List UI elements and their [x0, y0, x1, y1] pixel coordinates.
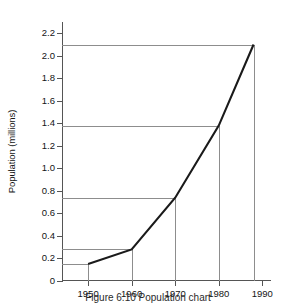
- y-tick-label: 2.2: [42, 27, 55, 38]
- population-line-chart: Population (millions) 00.20.40.60.81.01.…: [0, 0, 296, 303]
- y-tick-label: 0.4: [42, 230, 55, 241]
- x-tick-mark-1960: [132, 281, 133, 286]
- x-tick-mark-1990: [262, 281, 263, 286]
- x-tick-mark-1970: [175, 281, 176, 286]
- plot-area: 00.20.40.60.81.01.21.41.61.82.02.2 19501…: [62, 22, 271, 281]
- y-tick-label: 0: [50, 275, 55, 286]
- y-tick-label: 1.8: [42, 72, 55, 83]
- y-tick-label: 1.2: [42, 140, 55, 151]
- y-tick-label: 0.8: [42, 185, 55, 196]
- y-tick-label: 1.4: [42, 117, 55, 128]
- y-tick-label: 1.0: [42, 162, 55, 173]
- x-tick-mark-1950: [88, 281, 89, 286]
- y-axis-title-wrap: Population (millions): [2, 0, 20, 303]
- series-polyline: [88, 45, 253, 265]
- y-tick-label: 2.0: [42, 50, 55, 61]
- y-tick-label: 0.6: [42, 207, 55, 218]
- x-tick-mark-1980: [219, 281, 220, 286]
- y-tick-label: 0.2: [42, 252, 55, 263]
- y-tick-label: 1.6: [42, 95, 55, 106]
- series-line-population: [62, 22, 271, 281]
- y-axis-title: Population (millions): [2, 0, 20, 303]
- figure-caption: Figure 6.10 Population chart: [0, 292, 296, 303]
- y-tick-mark: [57, 281, 63, 282]
